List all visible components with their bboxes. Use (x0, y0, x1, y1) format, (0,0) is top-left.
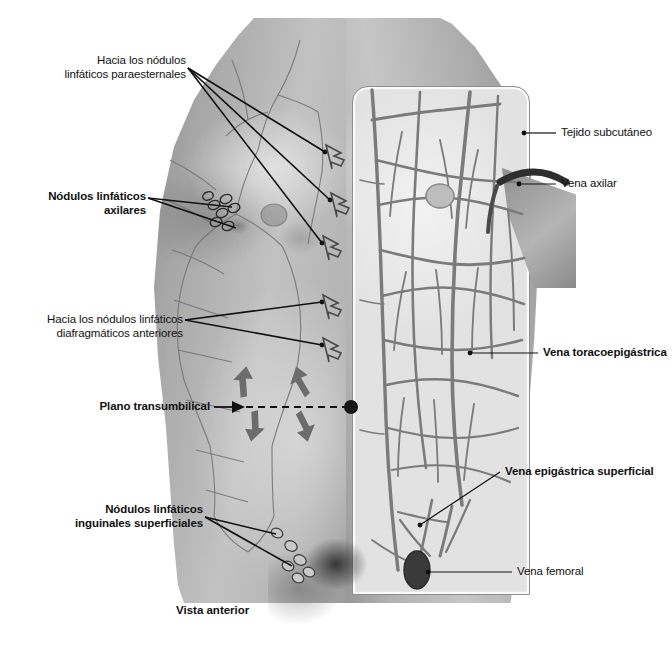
label-inguinal-nodes: Nódulos linfáticos inguinales superficia… (45, 503, 203, 530)
label-subcutaneous-tissue: Tejido subcutáneo (561, 126, 671, 140)
label-axillary-nodes: Nódulos linfáticos axilares (8, 190, 146, 217)
label-diaphragmatic-nodes: Hacia los nódulos linfáticos diafragmáti… (25, 313, 183, 340)
label-transumbilical-plane: Plano transumbilical (80, 400, 210, 414)
groin-region (268, 518, 388, 623)
label-superficial-epigastric-vein: Vena epigástrica superficial (505, 465, 671, 479)
label-axillary-vein: Vena axilar (561, 177, 665, 191)
label-thoracoepigastric-vein: Vena toracoepigástrica (543, 346, 671, 360)
label-paraesternal-nodes: Hacia los nódulos linfáticos paraesterna… (18, 54, 186, 81)
label-femoral-vein: Vena femoral (517, 565, 621, 579)
torso (150, 18, 540, 603)
anatomy-figure: Hacia los nódulos linfáticos paraesterna… (0, 0, 672, 646)
figure-caption: Vista anterior (176, 604, 249, 616)
